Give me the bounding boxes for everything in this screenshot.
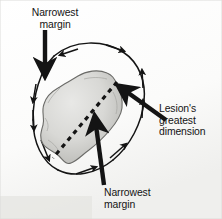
scan-artifact-band [0, 196, 92, 219]
label-narrowest-margin-bottom: Narrowest margin [104, 187, 184, 210]
label-narrowest-margin-top: Narrowest margin [14, 7, 96, 30]
label-lesion-greatest-dimension: Lesion's greatest dimension [159, 103, 221, 138]
lesion-margin-figure: Narrowest margin Lesion's greatest dimen… [0, 0, 222, 219]
